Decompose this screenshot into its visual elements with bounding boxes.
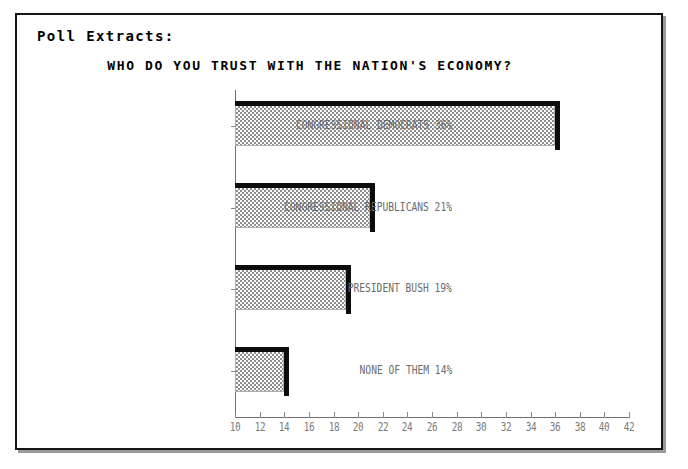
- y-tick-3: [231, 289, 236, 290]
- x-tick-16: [309, 412, 310, 418]
- x-tick-10: [235, 412, 236, 418]
- x-tick-label-20: 20: [353, 420, 363, 434]
- x-tick-40: [604, 412, 605, 418]
- x-tick-30: [481, 412, 482, 418]
- x-tick-label-14: 14: [279, 420, 289, 434]
- x-tick-28: [457, 412, 458, 418]
- bar-fill-4: [235, 351, 284, 392]
- x-tick-label-38: 38: [575, 420, 585, 434]
- chart-title: WHO DO YOU TRUST WITH THE NATION'S ECONO…: [17, 58, 661, 73]
- x-tick-42: [629, 412, 630, 418]
- x-tick-26: [432, 412, 433, 418]
- category-label-4: NONE OF THEM 14%: [359, 362, 452, 377]
- x-tick-32: [506, 412, 507, 418]
- x-tick-22: [383, 412, 384, 418]
- y-tick-1: [231, 126, 236, 127]
- page-title: Poll Extracts:: [37, 28, 175, 44]
- x-tick-label-16: 16: [304, 420, 314, 434]
- x-tick-label-42: 42: [624, 420, 634, 434]
- category-label-2: CONGRESSIONAL REPUBLICANS 21%: [284, 199, 452, 214]
- x-tick-label-18: 18: [328, 420, 338, 434]
- category-label-3: PRESIDENT BUSH 19%: [348, 280, 452, 295]
- x-tick-label-40: 40: [599, 420, 609, 434]
- x-tick-24: [407, 412, 408, 418]
- x-tick-label-36: 36: [550, 420, 560, 434]
- x-tick-label-34: 34: [525, 420, 535, 434]
- x-tick-20: [358, 412, 359, 418]
- x-tick-34: [531, 412, 532, 418]
- x-tick-label-10: 10: [230, 420, 240, 434]
- x-tick-label-32: 32: [501, 420, 511, 434]
- bar-chart-plot-area: 1012141618202224262830323436384042 CONGR…: [220, 90, 645, 430]
- x-tick-36: [555, 412, 556, 418]
- x-tick-label-12: 12: [254, 420, 264, 434]
- x-tick-14: [284, 412, 285, 418]
- bar-4: [235, 351, 284, 392]
- x-tick-label-24: 24: [402, 420, 412, 434]
- bar-3: [235, 269, 346, 310]
- bar-fill-3: [235, 269, 346, 310]
- category-label-1: CONGRESSIONAL DEMOCRATS 36%: [296, 117, 452, 132]
- poll-extract-frame: Poll Extracts: WHO DO YOU TRUST WITH THE…: [15, 13, 663, 450]
- x-tick-label-22: 22: [378, 420, 388, 434]
- x-tick-label-28: 28: [451, 420, 461, 434]
- y-tick-4: [231, 371, 236, 372]
- x-tick-label-26: 26: [427, 420, 437, 434]
- x-tick-38: [580, 412, 581, 418]
- y-tick-2: [231, 208, 236, 209]
- x-tick-label-30: 30: [476, 420, 486, 434]
- x-tick-18: [334, 412, 335, 418]
- x-tick-12: [260, 412, 261, 418]
